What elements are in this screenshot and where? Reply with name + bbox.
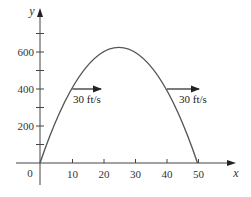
x-tick-label-20: 20 [99, 168, 111, 180]
velocity-label-1: 30 ft/s [73, 93, 101, 105]
y-axis-arrow-icon [37, 8, 43, 17]
y-tick-label-600: 600 [18, 46, 35, 58]
x-tick-label-50: 50 [193, 168, 205, 180]
x-ticks [73, 159, 199, 163]
y-axis-label: y [28, 4, 35, 18]
y-tick-label-400: 400 [18, 83, 35, 95]
y-tick-label-200: 200 [18, 120, 35, 132]
trajectory-curve [40, 47, 198, 163]
origin-label: 0 [27, 167, 33, 179]
velocity-label-2: 30 ft/s [179, 93, 207, 105]
chart: 0 10 20 30 40 50 x 200 400 600 y 30 ft/s… [0, 0, 251, 197]
x-tick-label-30: 30 [130, 168, 142, 180]
x-tick-label-40: 40 [162, 168, 174, 180]
x-axis-label: x [232, 166, 239, 180]
x-tick-label-10: 10 [67, 168, 79, 180]
